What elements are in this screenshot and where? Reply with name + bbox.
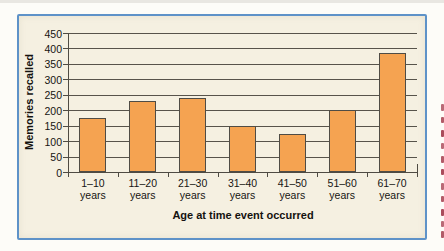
bar-11–20	[129, 101, 156, 172]
y-tick-100	[63, 141, 68, 142]
x-tick-0	[68, 173, 69, 177]
bar-51–60	[329, 110, 356, 172]
y-tick-350	[63, 64, 68, 65]
y-tick-250	[63, 95, 68, 96]
x-category-label-41–50: 41–50years	[267, 178, 317, 201]
bar-31–40	[229, 126, 256, 172]
y-tick-50	[63, 157, 68, 158]
x-category-label-51–60: 51–60years	[317, 178, 367, 201]
x-category-label-1–10: 1–10years	[68, 178, 118, 201]
x-category-label-11–20: 11–20years	[118, 178, 168, 201]
x-tick-7	[417, 173, 418, 177]
y-tick-400	[63, 48, 68, 49]
x-tick-6	[367, 173, 368, 177]
gridline-200	[68, 110, 417, 111]
y-axis-line	[68, 33, 69, 172]
bar-1–10	[79, 118, 106, 172]
x-axis-end-tick	[417, 164, 418, 172]
bar-chart: 050100150200250300350400450 1–10years11–…	[0, 0, 444, 251]
x-tick-2	[168, 173, 169, 177]
x-axis-title: Age at time event occurred	[142, 209, 344, 221]
x-category-label-31–40: 31–40years	[218, 178, 268, 201]
gridline-350	[68, 64, 417, 65]
x-tick-3	[218, 173, 219, 177]
y-axis-title: Memories recalled	[23, 32, 37, 172]
x-category-label-61–70: 61–70years	[367, 178, 417, 201]
bar-61–70	[379, 53, 406, 172]
x-tick-5	[317, 173, 318, 177]
gridline-400	[68, 48, 417, 49]
bar-41–50	[279, 134, 306, 172]
gridline-250	[68, 95, 417, 96]
gridline-300	[68, 79, 417, 80]
y-tick-300	[63, 79, 68, 80]
x-axis-line	[68, 172, 418, 173]
x-tick-1	[118, 173, 119, 177]
bar-21–30	[179, 98, 206, 172]
x-tick-4	[267, 173, 268, 177]
x-category-label-21–30: 21–30years	[168, 178, 218, 201]
y-tick-200	[63, 110, 68, 111]
y-tick-150	[63, 126, 68, 127]
y-tick-450	[63, 33, 68, 34]
gridline-450	[68, 33, 417, 34]
